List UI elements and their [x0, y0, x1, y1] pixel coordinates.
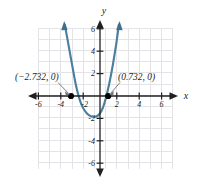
y-axis-arrow-down [96, 169, 104, 178]
y-tick-label: 6 [91, 25, 95, 34]
x-axis-arrow-right [170, 92, 179, 100]
curve-arrow-right [116, 21, 122, 30]
x-tick-label: 2 [115, 100, 119, 109]
y-tick-label: 4 [91, 47, 95, 56]
y-tick-label: -4 [88, 137, 95, 146]
leader-arrowhead-right [109, 91, 113, 96]
coordinate-plane-svg: -6 -4 -2 2 4 6 6 4 2 -2 -4 -6 x y [0, 0, 198, 189]
y-axis-label: y [101, 5, 107, 16]
x-axis-label: x [183, 90, 189, 101]
y-axis-arrow-up [96, 20, 104, 29]
y-tick-label: -2 [88, 114, 95, 123]
curve-arrow-left [61, 21, 67, 30]
point-marker-right-intercept [105, 93, 111, 99]
x-tick-label: 6 [160, 100, 164, 109]
graph-figure: -6 -4 -2 2 4 6 6 4 2 -2 -4 -6 x y [0, 0, 198, 189]
point-marker-left-intercept [68, 93, 74, 99]
x-tick-label: -6 [35, 100, 42, 109]
x-tick-label: -2 [81, 100, 88, 109]
y-axis [96, 20, 104, 177]
left-intercept-label: (−2.732, 0) [15, 72, 59, 83]
y-tick-label: -6 [88, 159, 95, 168]
x-axis [28, 92, 178, 100]
y-tick-label: 2 [91, 69, 95, 78]
x-tick-labels: -6 -4 -2 2 4 6 [35, 100, 164, 109]
x-tick-label: -4 [57, 100, 64, 109]
x-tick-label: 4 [137, 100, 141, 109]
right-intercept-label: (0.732, 0) [118, 72, 155, 83]
